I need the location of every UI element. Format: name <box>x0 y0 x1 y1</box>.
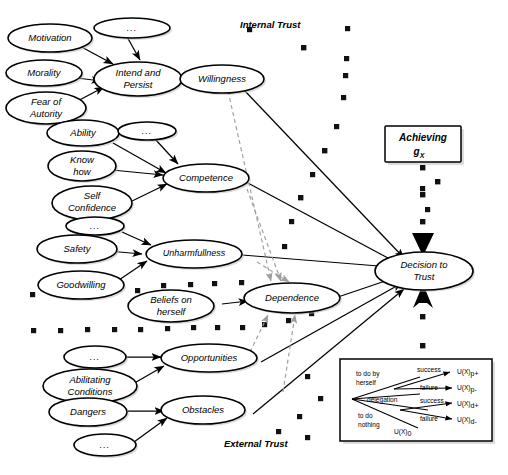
tree-outcome-1: failure <box>420 384 438 391</box>
tree-branch-3-line2: nothing <box>358 421 380 429</box>
goal-box-line1: Achieving <box>398 132 447 143</box>
node-beliefs-on-herself-line2: herself <box>157 306 187 317</box>
node-beliefs-on-herself[interactable]: Beliefs on herself <box>128 290 216 324</box>
node-obstacles-label: Obstacles <box>182 404 224 415</box>
node-know-how[interactable]: Know how <box>48 151 118 183</box>
node-dots-obstacles[interactable]: ... <box>74 434 138 458</box>
node-competence[interactable]: Competence <box>163 164 251 194</box>
node-know-how-line1: Know <box>70 154 95 165</box>
node-intend-and-persist-line1: Intend and <box>116 67 162 78</box>
node-decision-to-trust[interactable]: Decision to Trust <box>375 252 475 292</box>
node-obstacles[interactable]: Obstacles <box>161 396 247 426</box>
tree-outcome-0: success <box>417 366 442 373</box>
node-opportunities-label: Opportunities <box>181 352 238 363</box>
decision-tree-panel: to do by herself delegation to do nothin… <box>340 359 495 444</box>
internal-trust-label: Internal Trust <box>240 19 301 30</box>
external-trust-label: External Trust <box>224 438 289 449</box>
node-fear-of-authority-line1: Fear of <box>31 96 62 107</box>
goal-box-line2: g <box>413 146 420 157</box>
node-dots-top[interactable]: ... <box>94 18 172 40</box>
node-self-confidence-line2: Confidence <box>68 202 116 213</box>
node-safety[interactable]: Safety <box>37 235 119 265</box>
node-dots-ability-label: ... <box>142 126 153 136</box>
node-abilitating-conditions-line1: Abilitating <box>68 374 111 385</box>
node-dots-opportunities[interactable]: ... <box>64 346 128 370</box>
node-willingness-label: Willingness <box>198 73 246 84</box>
node-dangers[interactable]: Dangers <box>49 398 129 428</box>
tree-outcome-3: failure <box>420 415 438 422</box>
node-goodwilling[interactable]: Goodwilling <box>38 271 126 301</box>
node-ability[interactable]: Ability <box>47 120 121 148</box>
node-morality-label: Morality <box>27 67 62 78</box>
node-know-how-line2: how <box>73 166 92 177</box>
node-ability-label: Ability <box>69 127 97 138</box>
node-abilitating-conditions-line2: Conditions <box>68 386 113 397</box>
node-morality[interactable]: Morality <box>6 60 84 88</box>
node-beliefs-on-herself-line1: Beliefs on <box>150 294 192 305</box>
node-safety-label: Safety <box>64 243 92 254</box>
tree-branch-3-line1: to do <box>358 412 373 419</box>
node-dots-ability[interactable]: ... <box>118 122 178 142</box>
node-self-confidence-line1: Self <box>84 190 102 201</box>
node-decision-to-trust-line1: Decision to <box>401 259 448 270</box>
node-decision-to-trust-line2: Trust <box>414 271 435 282</box>
node-dots-top-label: ... <box>127 23 138 33</box>
node-unharmfullness-label: Unharmfullness <box>163 248 226 258</box>
goal-box: Achieving gX <box>385 126 464 165</box>
tree-branch-2: delegation <box>367 396 398 404</box>
node-intend-and-persist[interactable]: Intend and Persist <box>94 62 184 98</box>
node-dots-obstacles-label: ... <box>100 440 111 450</box>
node-unharmfullness[interactable]: Unharmfullness <box>146 240 244 270</box>
node-intend-and-persist-line2: Persist <box>123 79 152 90</box>
node-dots-opportunities-label: ... <box>90 352 101 362</box>
tree-outcome-2: success <box>420 397 445 404</box>
trust-model-diagram: Achieving gX Motivation ... <box>0 0 508 475</box>
node-goodwilling-label: Goodwilling <box>56 279 106 290</box>
tree-branch-1-line2: herself <box>356 379 376 386</box>
node-dependence[interactable]: Dependence <box>244 283 342 315</box>
node-dots-safety[interactable]: ... <box>66 217 126 237</box>
node-competence-label: Competence <box>179 172 233 183</box>
node-fear-of-authority-line2: Autority <box>29 108 63 119</box>
node-dangers-label: Dangers <box>70 406 106 417</box>
node-dependence-label: Dependence <box>265 292 319 303</box>
node-motivation-label: Motivation <box>28 32 71 43</box>
diagram-canvas: Achieving gX Motivation ... <box>0 0 508 475</box>
node-dots-safety-label: ... <box>90 221 101 231</box>
tree-branch-1-line1: to do by <box>356 370 380 378</box>
node-motivation[interactable]: Motivation <box>8 24 94 54</box>
node-opportunities[interactable]: Opportunities <box>161 344 259 374</box>
node-willingness[interactable]: Willingness <box>180 65 266 95</box>
